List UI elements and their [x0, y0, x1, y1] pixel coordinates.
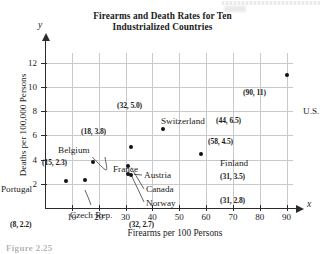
y-tick-label-6: 6 — [19, 130, 37, 140]
x-tick-label-30: 30 — [116, 212, 136, 222]
y-tick-mark-6 — [41, 135, 47, 136]
coordinate-label-0: (8, 2.2) — [10, 220, 31, 229]
x-tick-mark-90 — [287, 205, 288, 211]
coordinate-label-3: (32, 5.0) — [117, 101, 142, 110]
x-tick-label-70: 70 — [223, 212, 243, 222]
y-axis-arrow-icon — [42, 33, 50, 41]
data-point-finland — [199, 152, 203, 156]
country-label-norway: Norway — [146, 198, 176, 208]
plot-area: PortugalCzech Rep.BelgiumFranceSwitzerla… — [45, 53, 300, 208]
y-axis-title: Deaths per 100,000 Persons — [18, 55, 28, 195]
data-point-u-s — [285, 73, 289, 77]
y-axis-variable-letter: y — [38, 20, 42, 30]
x-tick-mark-40 — [152, 205, 153, 211]
leader-line-0 — [92, 157, 106, 170]
x-axis-title: Firearms per 100 Persons — [80, 228, 270, 238]
y-tick-label-10: 10 — [19, 82, 37, 92]
x-tick-mark-30 — [126, 205, 127, 211]
x-tick-mark-10 — [72, 205, 73, 211]
x-tick-label-60: 60 — [196, 212, 216, 222]
country-label-finland: Finland — [220, 158, 248, 168]
x-tick-label-20: 20 — [89, 212, 109, 222]
y-tick-mark-2 — [41, 184, 47, 185]
coordinate-label-9: (90, 11) — [243, 88, 266, 97]
coordinate-label-6: (31, 2.8) — [220, 196, 245, 205]
country-label-belgium: Belgium — [58, 145, 90, 155]
chart-title-line-1: Firearms and Death Rates for Ten — [55, 11, 270, 22]
y-tick-mark-8 — [41, 111, 47, 112]
x-tick-mark-20 — [99, 205, 100, 211]
figure-caption: Figure 2.25 — [6, 243, 53, 253]
x-tick-label-50: 50 — [169, 212, 189, 222]
leader-line-4 — [131, 175, 144, 202]
x-tick-mark-60 — [206, 205, 207, 211]
y-tick-label-12: 12 — [19, 58, 37, 68]
figure-page: Firearms and Death Rates for Ten Industr… — [0, 0, 323, 254]
chart-title-line-2: Industrialized Countries — [55, 22, 270, 33]
scan-artifact — [222, 1, 320, 5]
coordinate-label-7: (44, 6.5) — [216, 116, 241, 125]
y-tick-label-2: 2 — [19, 179, 37, 189]
country-label-canada: Canada — [146, 184, 174, 194]
country-label-u-s: U.S. — [303, 106, 319, 116]
x-tick-label-10: 10 — [62, 212, 82, 222]
x-axis-variable-letter: x — [307, 199, 311, 209]
x-tick-label-90: 90 — [277, 212, 297, 222]
x-tick-label-40: 40 — [142, 212, 162, 222]
x-tick-mark-70 — [233, 205, 234, 211]
y-tick-mark-4 — [41, 160, 47, 161]
country-label-switzerland: Switzerland — [161, 116, 205, 126]
y-tick-mark-10 — [41, 87, 47, 88]
x-tick-mark-80 — [260, 205, 261, 211]
country-label-france: France — [113, 164, 138, 174]
x-tick-mark-50 — [179, 205, 180, 211]
coordinate-label-5: (31, 3.5) — [220, 172, 245, 181]
leader-line-1 — [85, 190, 91, 205]
coordinate-label-8: (58, 4.5) — [208, 137, 233, 146]
y-tick-mark-12 — [41, 63, 47, 64]
country-label-austria: Austria — [144, 170, 171, 180]
coordinate-label-2: (18, 3.8) — [81, 127, 106, 136]
y-tick-label-8: 8 — [19, 106, 37, 116]
x-tick-label-80: 80 — [250, 212, 270, 222]
y-tick-label-4: 4 — [19, 155, 37, 165]
chart-title: Firearms and Death Rates for Ten Industr… — [55, 11, 270, 33]
